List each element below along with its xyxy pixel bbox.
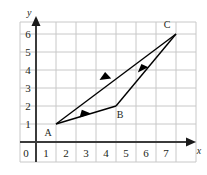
y-axis-tick-labels: 1 2 3 4 5 6 [25, 28, 31, 130]
y-tick-label-2: 2 [25, 100, 31, 112]
x-tick-label-6: 6 [143, 147, 149, 159]
y-tick-label-5: 5 [25, 46, 31, 58]
x-tick-label-0: 0 [23, 147, 29, 159]
point-label-a: A [44, 127, 52, 138]
y-tick-label-6: 6 [25, 28, 31, 40]
y-tick-label-1: 1 [25, 118, 31, 130]
axes [20, 16, 196, 162]
y-axis-arrow-icon [32, 16, 41, 26]
point-label-b: B [117, 109, 124, 120]
coordinate-plane-figure: 0 1 2 3 4 5 6 7 1 2 3 4 5 6 y x [0, 0, 207, 175]
graph-svg: 0 1 2 3 4 5 6 7 1 2 3 4 5 6 y x [0, 0, 207, 175]
x-tick-label-7: 7 [163, 147, 169, 159]
vector-ac-arrowhead-icon [100, 72, 112, 80]
x-tick-label-5: 5 [123, 147, 129, 159]
vector-ab-arrowhead-icon [80, 110, 91, 118]
point-label-c: C [164, 19, 171, 30]
y-tick-label-4: 4 [25, 64, 31, 76]
x-axis-label: x [196, 145, 202, 156]
x-tick-label-4: 4 [103, 147, 109, 159]
x-tick-label-1: 1 [43, 147, 49, 159]
y-axis-label: y [26, 7, 32, 18]
y-tick-label-3: 3 [25, 82, 31, 94]
x-tick-label-3: 3 [83, 147, 89, 159]
x-axis-arrow-icon [186, 138, 196, 147]
x-tick-label-2: 2 [63, 147, 69, 159]
